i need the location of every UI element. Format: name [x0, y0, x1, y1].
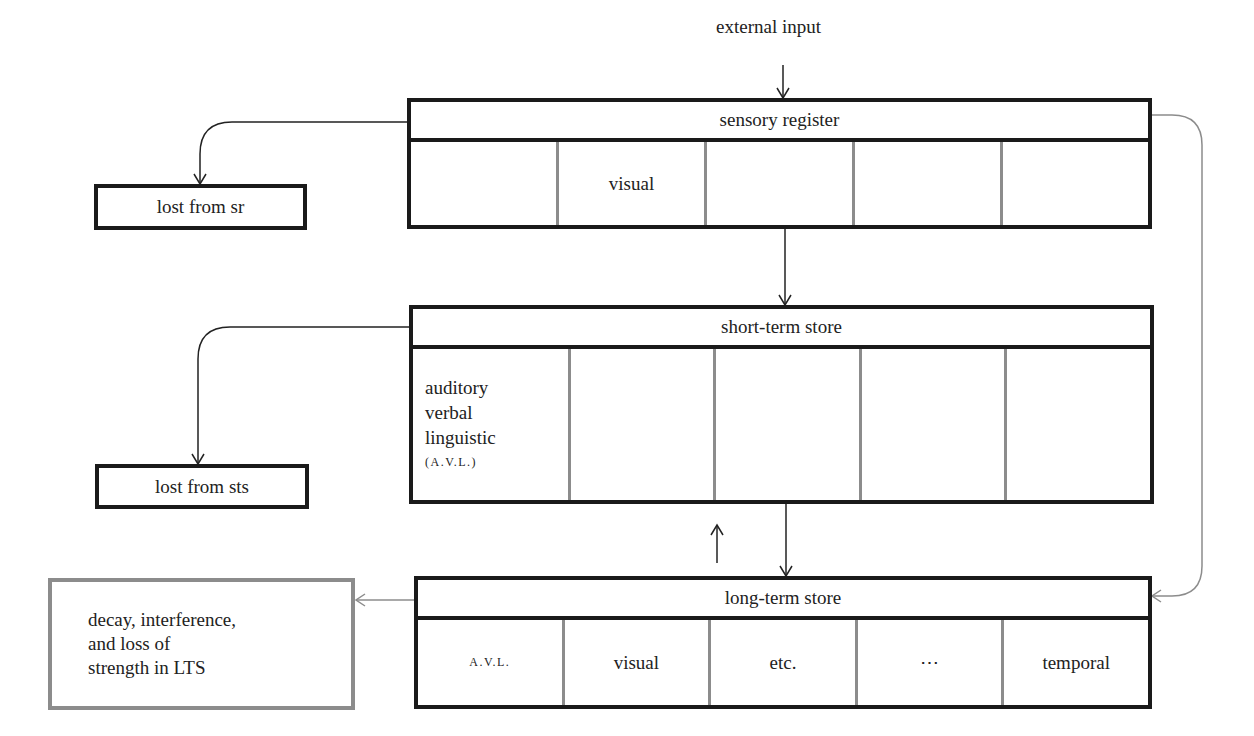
- external-input-label: external input: [716, 16, 821, 38]
- lost-from-sr-box: lost from sr: [94, 184, 307, 230]
- sts-avl-line-auditory: auditory: [425, 375, 496, 400]
- sr-cell-visual: visual: [559, 142, 707, 225]
- sts-avl-line-verbal: verbal: [425, 400, 496, 425]
- sr-to-sts-arrow-icon: [779, 227, 791, 305]
- lts-cell-avl: A.V.L.: [418, 620, 565, 705]
- decay-line-3: strength in LTS: [88, 656, 236, 680]
- sts-cell-3: [716, 349, 862, 500]
- long-term-store-box: long-term store A.V.L. visual etc. ⋯ tem…: [414, 576, 1152, 709]
- sr-to-lts-gray-arrow-icon: [1150, 115, 1202, 602]
- sts-avl-line-linguistic: linguistic: [425, 425, 496, 450]
- lts-cell-ellipsis: ⋯: [858, 620, 1005, 705]
- sts-cell-5: [1007, 349, 1150, 500]
- decay-line-1: decay, interference,: [88, 608, 236, 632]
- sr-cell-3: [707, 142, 855, 225]
- sts-avl-line-abbrev: (A.V.L.): [425, 450, 496, 475]
- sts-to-lost-arrow-icon: [192, 327, 409, 464]
- short-term-store-cells: auditory verbal linguistic (A.V.L.): [413, 349, 1150, 500]
- sr-cell-5: [1003, 142, 1148, 225]
- sts-cell-4: [862, 349, 1008, 500]
- sensory-register-cells: visual: [411, 142, 1148, 225]
- lts-cell-temporal: temporal: [1004, 620, 1148, 705]
- long-term-store-cells: A.V.L. visual etc. ⋯ temporal: [418, 620, 1148, 705]
- sr-cell-4: [855, 142, 1003, 225]
- lts-to-sts-up-arrow-icon: [711, 525, 723, 563]
- lts-cell-etc: etc.: [711, 620, 858, 705]
- sts-cell-2: [571, 349, 717, 500]
- sensory-register-title: sensory register: [411, 102, 1148, 142]
- decay-interference-box: decay, interference, and loss of strengt…: [48, 578, 355, 710]
- sts-to-lts-arrow-icon: [780, 502, 792, 576]
- sensory-register-box: sensory register visual: [407, 98, 1152, 229]
- sts-cell-avl: auditory verbal linguistic (A.V.L.): [413, 349, 571, 500]
- long-term-store-title: long-term store: [418, 580, 1148, 620]
- lts-cell-visual: visual: [565, 620, 712, 705]
- decay-line-2: and loss of: [88, 632, 236, 656]
- short-term-store-title: short-term store: [413, 309, 1150, 349]
- sr-to-lost-arrow-icon: [194, 122, 407, 184]
- short-term-store-box: short-term store auditory verbal linguis…: [409, 305, 1154, 504]
- lost-from-sts-box: lost from sts: [95, 464, 309, 509]
- lts-to-decay-gray-arrow-icon: [356, 594, 414, 606]
- sr-cell-1: [411, 142, 559, 225]
- external-input-arrow-icon: [777, 65, 789, 98]
